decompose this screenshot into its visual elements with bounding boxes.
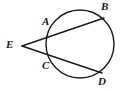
point-label-b: B <box>101 1 108 12</box>
point-label-e: E <box>6 39 13 50</box>
point-label-c: C <box>42 60 49 71</box>
circle-shape <box>46 10 114 78</box>
secant-line-ecd <box>22 46 102 73</box>
secant-line-eab <box>22 18 104 46</box>
geometry-diagram: E A B C D <box>0 0 123 90</box>
point-label-d: D <box>98 76 106 87</box>
point-label-a: A <box>42 16 49 27</box>
